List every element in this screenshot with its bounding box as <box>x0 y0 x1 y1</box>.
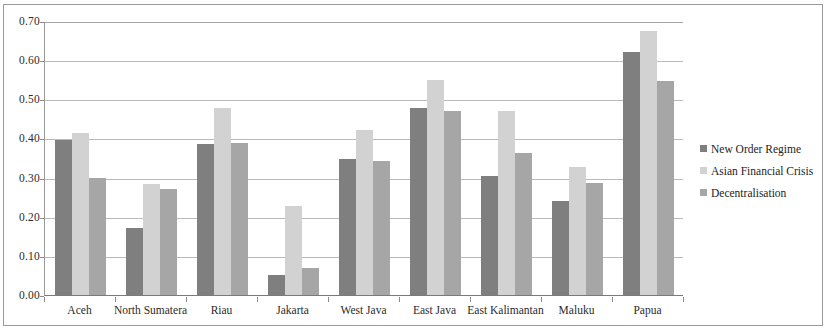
x-axis-tick-mark <box>115 297 116 302</box>
bar-group <box>329 22 400 295</box>
x-axis-tick-mark <box>44 297 45 302</box>
x-axis-tick-mark <box>683 297 684 302</box>
bar-chart-figure: 0.700.600.500.400.300.200.100.00 AcehNor… <box>0 0 828 333</box>
x-axis-tick-label: North Sumatera <box>114 304 187 317</box>
y-axis: 0.700.600.500.400.300.200.100.00 <box>0 22 40 296</box>
plot-area <box>44 22 683 296</box>
x-axis-tick-mark <box>541 297 542 302</box>
bar <box>427 80 444 295</box>
bar <box>143 184 160 295</box>
bar <box>640 31 657 295</box>
y-axis-tick-label: 0.00 <box>4 290 40 302</box>
bar <box>498 111 515 295</box>
legend-label: Asian Financial Crisis <box>711 166 813 178</box>
x-axis-tick-label: Aceh <box>67 304 91 317</box>
bar <box>231 143 248 295</box>
bar <box>197 144 214 295</box>
bar <box>373 161 390 295</box>
legend-swatch-icon <box>700 145 707 152</box>
y-axis-tick-label: 0.20 <box>4 212 40 224</box>
bars-layer <box>45 22 683 295</box>
x-axis-tick-label: Papua <box>633 304 661 317</box>
bar <box>339 159 356 295</box>
x-axis-tick-mark <box>470 297 471 302</box>
bar <box>214 108 231 295</box>
x-axis-tick-label: East Kalimantan <box>467 304 543 317</box>
bar <box>586 183 603 295</box>
x-axis-tick-label: Maluku <box>559 304 595 317</box>
x-axis-tick-mark <box>399 297 400 302</box>
bar <box>72 133 89 295</box>
bar <box>356 130 373 295</box>
bar <box>623 52 640 295</box>
y-axis-tick-label: 0.50 <box>4 95 40 107</box>
bar <box>410 108 427 295</box>
x-axis-tick-mark <box>612 297 613 302</box>
bar-group <box>400 22 471 295</box>
x-axis-tick-label: Jakarta <box>276 304 309 317</box>
bar <box>515 153 532 295</box>
bar-group <box>45 22 116 295</box>
bar <box>569 167 586 295</box>
x-axis-tick-label: West Java <box>340 304 386 317</box>
bar-group <box>613 22 684 295</box>
legend-item[interactable]: New Order Regime <box>700 143 824 156</box>
bar-group <box>116 22 187 295</box>
bar <box>126 228 143 295</box>
bar <box>552 201 569 295</box>
bar <box>285 206 302 295</box>
bar <box>268 275 285 295</box>
legend-swatch-icon <box>700 189 707 196</box>
y-axis-tick-label: 0.60 <box>4 55 40 67</box>
bar <box>302 268 319 295</box>
x-axis-tick-label: East Java <box>413 304 456 317</box>
legend-item[interactable]: Asian Financial Crisis <box>700 165 824 178</box>
x-axis-tick-mark <box>328 297 329 302</box>
bar <box>55 140 72 295</box>
bar <box>481 176 498 295</box>
bar <box>160 189 177 295</box>
bar-group <box>258 22 329 295</box>
bar-group <box>471 22 542 295</box>
x-axis-tick-mark <box>257 297 258 302</box>
bar <box>89 178 106 295</box>
y-axis-tick-label: 0.10 <box>4 251 40 263</box>
y-axis-tick-label: 0.30 <box>4 173 40 185</box>
legend-label: New Order Regime <box>711 144 801 156</box>
legend-swatch-icon <box>700 167 707 174</box>
chart-legend: New Order RegimeAsian Financial CrisisDe… <box>700 143 824 209</box>
y-axis-tick-label: 0.40 <box>4 134 40 146</box>
bar-group <box>542 22 613 295</box>
x-axis-tick-mark <box>186 297 187 302</box>
y-axis-tick-label: 0.70 <box>4 16 40 28</box>
bar <box>444 111 461 295</box>
bar-group <box>187 22 258 295</box>
x-axis-tick-label: Riau <box>211 304 233 317</box>
x-axis: AcehNorth SumateraRiauJakartaWest JavaEa… <box>44 297 683 327</box>
legend-item[interactable]: Decentralisation <box>700 187 824 200</box>
legend-label: Decentralisation <box>711 188 786 200</box>
bar <box>657 81 674 296</box>
